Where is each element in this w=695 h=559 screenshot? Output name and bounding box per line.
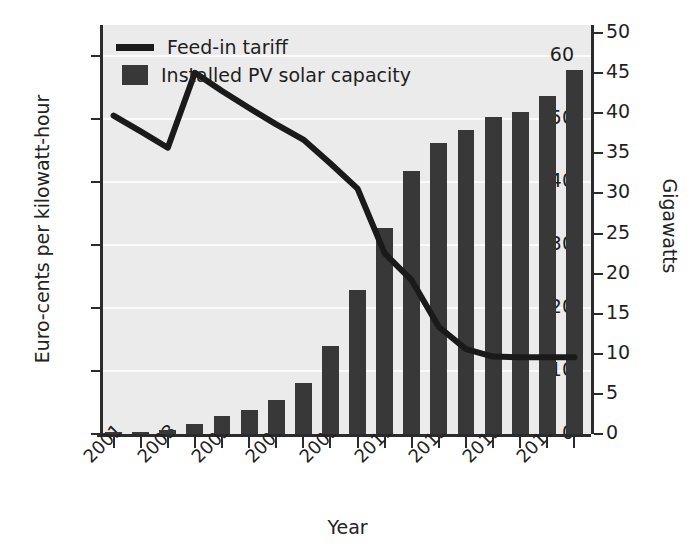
y-axis-right-tick [594,353,603,355]
y-axis-right-tick [594,152,603,154]
y-axis-left-tick [91,118,100,120]
y-axis-left-title: Euro-cents per kilowatt-hour [31,69,53,389]
legend-label-feed-in-tariff: Feed-in tariff [167,36,288,58]
legend-label-installed-pv-solar-capacity: Installed PV solar capacity [161,64,411,86]
y-axis-right-tick [594,32,603,34]
y-axis-left-tick [91,370,100,372]
y-axis-left-tick [91,55,100,57]
y-axis-right-tick [594,233,603,235]
y-axis-right-tick [594,273,603,275]
y-axis-right-tick-label: 0 [606,423,618,442]
y-axis-right-tick [594,433,603,435]
y-axis-right-tick [594,313,603,315]
y-axis-right-tick-label: 25 [606,223,630,242]
y-axis-right-tick-label: 40 [606,102,630,121]
chart-figure: Euro-cents per kilowatt-hour Gigawatts Y… [0,0,695,559]
y-axis-right-tick [594,393,603,395]
line-swatch-icon [116,44,154,51]
y-axis-right-tick [594,112,603,114]
y-axis-right-tick-label: 10 [606,343,630,362]
y-axis-left-tick [91,307,100,309]
legend-item-installed-pv-solar-capacity[interactable]: Installed PV solar capacity [116,61,411,89]
y-axis-right-tick-label: 35 [606,142,630,161]
feed-in-tariff-polyline [114,73,575,357]
y-axis-right-tick-label: 5 [606,383,618,402]
y-axis-left-tick [91,181,100,183]
y-axis-right-tick-label: 50 [606,22,630,41]
y-axis-left-tick [91,244,100,246]
y-axis-right-tick-label: 30 [606,182,630,201]
legend: Feed-in tariff Installed PV solar capaci… [116,33,411,89]
x-axis-tick [573,437,575,448]
y-axis-right-tick-label: 20 [606,263,630,282]
y-axis-right-tick [594,192,603,194]
y-axis-right-tick-label: 45 [606,62,630,81]
y-axis-right-tick [594,72,603,74]
x-axis-title: Year [0,516,695,538]
legend-item-feed-in-tariff[interactable]: Feed-in tariff [116,33,411,61]
y-axis-right-title: Gigawatts [659,96,681,356]
y-axis-right-tick-label: 15 [606,303,630,322]
bar-swatch-icon [122,65,148,85]
